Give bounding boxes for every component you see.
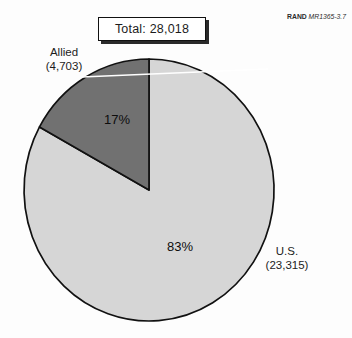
allied-slice-value: (4,703) [26,59,102,73]
allied-percent-label: 17% [95,112,139,127]
allied-slice-name: Allied [26,45,102,59]
pie-chart-figure: RAND MR1365-3.7 Total: 28,018 Allied (4,… [0,0,352,338]
us-slice-name: U.S. [251,244,323,258]
us-percent-label: 83% [158,239,202,254]
us-slice-label: U.S. (23,315) [251,244,323,272]
us-slice-value: (23,315) [251,258,323,272]
allied-slice-label: Allied (4,703) [26,45,102,73]
